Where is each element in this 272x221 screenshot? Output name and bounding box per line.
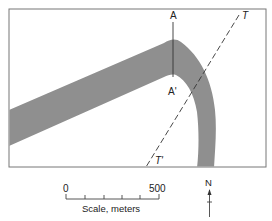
scale-end-label: 500	[149, 183, 166, 194]
label-t: T	[242, 10, 249, 21]
geologic-map-figure: A A' T T' 0 500 Scale, meters N	[0, 0, 272, 221]
label-a-prime: A'	[168, 86, 177, 97]
scale-bar: 0 500 Scale, meters	[63, 183, 166, 214]
scale-caption: Scale, meters	[82, 203, 140, 214]
label-a: A	[170, 10, 177, 21]
north-arrow-icon: N	[205, 177, 212, 217]
label-t-prime: T'	[155, 155, 164, 166]
north-label: N	[205, 177, 212, 188]
scale-start-label: 0	[63, 183, 69, 194]
